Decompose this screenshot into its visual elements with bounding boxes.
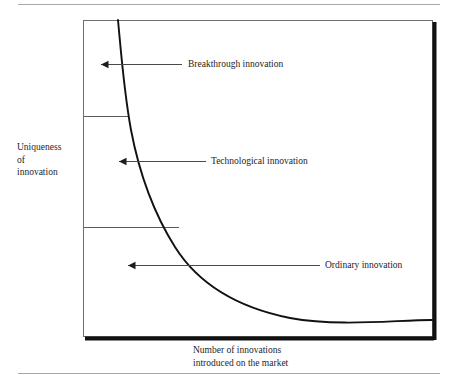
- x-axis-label: Number of innovations introduced on the …: [193, 344, 363, 369]
- callout-label-ordinary: Ordinary innovation: [325, 259, 402, 271]
- callout-label-breakthrough: Breakthrough innovation: [188, 58, 283, 70]
- figure-page: Uniqueness of innovation Number of innov…: [0, 0, 453, 385]
- callout-label-technological: Technological innovation: [211, 155, 308, 167]
- callout-arrow-ordinary: [128, 262, 320, 270]
- y-axis-label: Uniqueness of innovation: [17, 141, 79, 179]
- callout-arrow-breakthrough: [101, 61, 182, 69]
- callout-arrow-technological: [119, 158, 206, 166]
